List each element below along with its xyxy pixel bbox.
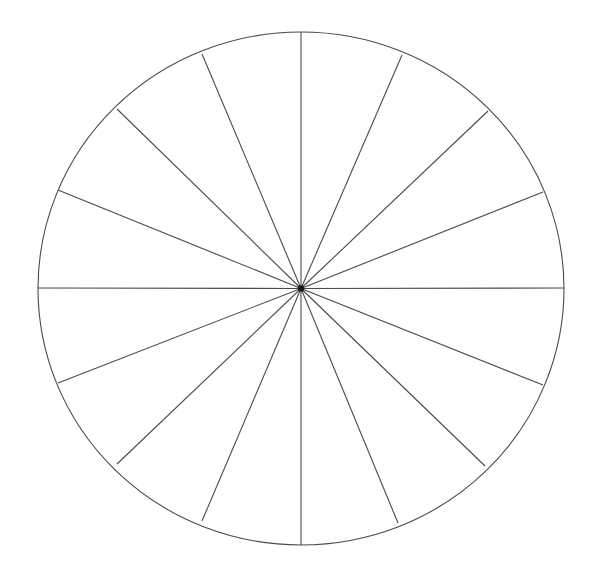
spoke-line-13: [38, 288, 301, 289]
figure-canvas: [0, 0, 599, 571]
sixteen-sector-circle-svg: [0, 0, 599, 571]
center-hub-dot: [298, 285, 304, 291]
spoke-line-05: [301, 288, 564, 289]
